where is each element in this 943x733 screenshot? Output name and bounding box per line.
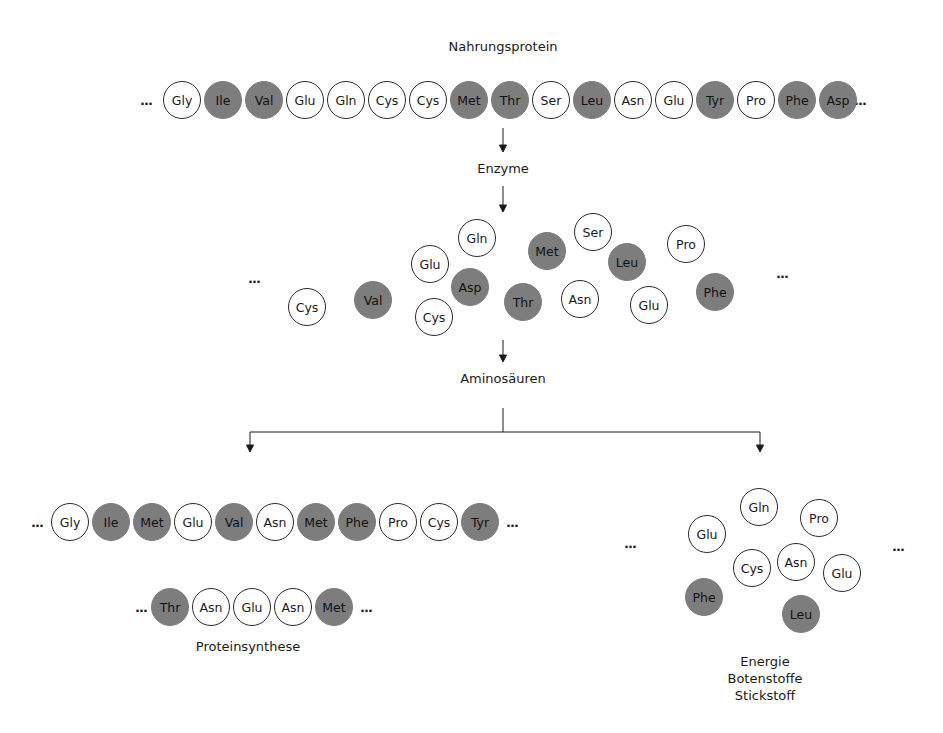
amino-acid-leu: Leu (573, 81, 611, 119)
ellipsis-left-top: ... (140, 93, 152, 108)
ellipsis-right-chain1: ... (506, 515, 518, 530)
amino-acid-phe: Phe (778, 81, 816, 119)
amino-acid-glu: Glu (174, 503, 212, 541)
amino-acid-thr: Thr (504, 283, 542, 321)
amino-acids-label: Aminosäuren (460, 370, 546, 387)
amino-acid-phe: Phe (338, 503, 376, 541)
amino-acid-tyr: Tyr (461, 503, 499, 541)
ellipsis-left-pool: ... (624, 536, 636, 551)
amino-acid-gly: Gly (163, 81, 201, 119)
amino-acid-val: Val (245, 81, 283, 119)
amino-acid-gly: Gly (51, 503, 89, 541)
amino-acid-cys: Cys (368, 81, 406, 119)
ellipsis-left-chain2: ... (135, 600, 147, 615)
amino-acid-leu: Leu (782, 595, 820, 633)
amino-acid-cys: Cys (409, 81, 447, 119)
amino-acid-asn: Asn (192, 588, 230, 626)
amino-acid-gln: Gln (740, 488, 778, 526)
amino-acid-asn: Asn (256, 503, 294, 541)
amino-acid-pro: Pro (667, 225, 705, 263)
amino-acid-glu: Glu (411, 245, 449, 283)
amino-acid-phe: Phe (696, 273, 734, 311)
amino-acid-ile: Ile (204, 81, 242, 119)
protein-synthesis-label: Proteinsynthese (196, 638, 300, 655)
amino-acid-pro: Pro (800, 499, 838, 537)
amino-acid-glu: Glu (233, 588, 271, 626)
amino-acid-met: Met (315, 588, 353, 626)
amino-acid-cys: Cys (733, 549, 771, 587)
amino-acid-gln: Gln (327, 81, 365, 119)
amino-acid-ser: Ser (532, 81, 570, 119)
amino-acid-met: Met (450, 81, 488, 119)
amino-acid-met: Met (297, 503, 335, 541)
amino-acid-asn: Asn (777, 543, 815, 581)
amino-acid-asn: Asn (274, 588, 312, 626)
amino-acid-gln: Gln (458, 219, 496, 257)
ellipsis-right-middle: ... (776, 266, 788, 281)
amino-acid-leu: Leu (608, 243, 646, 281)
amino-acid-asp: Asp (451, 268, 489, 306)
ellipsis-left-chain1: ... (31, 515, 43, 530)
amino-acid-pro: Pro (379, 503, 417, 541)
amino-acid-ser: Ser (574, 213, 612, 251)
amino-acid-asn: Asn (614, 81, 652, 119)
amino-acid-asn: Asn (561, 280, 599, 318)
amino-acid-ile: Ile (92, 503, 130, 541)
amino-acid-tyr: Tyr (696, 81, 734, 119)
ellipsis-right-chain2: ... (360, 600, 372, 615)
messengers-label: Botenstoffe (728, 670, 803, 687)
amino-acid-phe: Phe (685, 578, 723, 616)
ellipsis-right-pool: ... (892, 539, 904, 554)
amino-acid-glu: Glu (286, 81, 324, 119)
dietary-protein-label: Nahrungsprotein (449, 38, 558, 55)
amino-acid-cys: Cys (288, 288, 326, 326)
amino-acid-glu: Glu (823, 554, 861, 592)
amino-acid-thr: Thr (151, 588, 189, 626)
enzyme-label: Enzyme (477, 160, 529, 177)
amino-acid-glu: Glu (630, 286, 668, 324)
amino-acid-val: Val (215, 503, 253, 541)
amino-acid-glu: Glu (688, 515, 726, 553)
amino-acid-val: Val (354, 281, 392, 319)
amino-acid-cys: Cys (415, 298, 453, 336)
amino-acid-pro: Pro (737, 81, 775, 119)
amino-acid-met: Met (528, 232, 566, 270)
amino-acid-asp: Asp (819, 81, 857, 119)
ellipsis-left-middle: ... (248, 271, 260, 286)
nitrogen-label: Stickstoff (735, 687, 795, 704)
amino-acid-glu: Glu (655, 81, 693, 119)
amino-acid-thr: Thr (491, 81, 529, 119)
amino-acid-met: Met (133, 503, 171, 541)
amino-acid-cys: Cys (420, 503, 458, 541)
energy-label: Energie (740, 653, 789, 670)
